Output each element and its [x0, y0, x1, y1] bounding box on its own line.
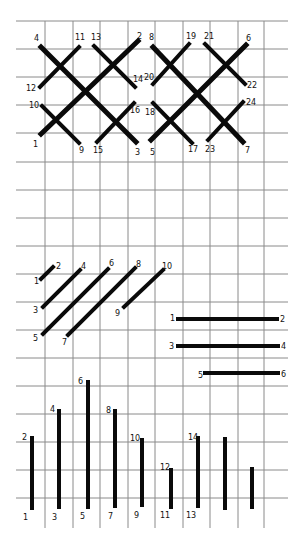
- stitch-number-label: 10: [130, 434, 140, 443]
- stitch-number-label: 2: [56, 262, 61, 271]
- stitch-number-label: 6: [281, 370, 286, 379]
- stitch-number-label: 11: [160, 511, 170, 520]
- stitch-number-label: 8: [136, 260, 141, 269]
- stitch-number-label: 6: [78, 377, 83, 386]
- stitch-number-label: 10: [29, 101, 39, 110]
- stitch-number-label: 1: [170, 314, 175, 323]
- stitch-number-label: 1: [34, 277, 39, 286]
- stitch-number-label: 9: [79, 146, 84, 155]
- stitch-number-label: 4: [81, 262, 86, 271]
- stitch-number-label: 11: [75, 33, 85, 42]
- stitch-number-label: 13: [186, 511, 196, 520]
- stitch-number-label: 20: [144, 73, 154, 82]
- stitch-number-label: 19: [186, 32, 196, 41]
- stitch-number-label: 8: [106, 406, 111, 415]
- stitch-number-label: 3: [33, 306, 38, 315]
- stitch-number-label: 12: [26, 84, 36, 93]
- stitch-number-label: 5: [150, 148, 155, 157]
- stitch-number-label: 7: [62, 338, 67, 347]
- stitch-number-label: 6: [246, 34, 251, 43]
- stitch-number-label: 5: [198, 371, 203, 380]
- stitch-number-label: 9: [115, 309, 120, 318]
- stitch-number-label: 2: [280, 315, 285, 324]
- stitch-number-label: 14: [133, 75, 143, 84]
- stitch-number-label: 13: [91, 33, 101, 42]
- stitch-number-label: 2: [137, 32, 142, 41]
- stitch-number-label: 4: [34, 34, 39, 43]
- stitch-number-label: 4: [50, 405, 55, 414]
- stitch-number-label: 3: [135, 148, 140, 157]
- stitch-number-label: 8: [149, 33, 154, 42]
- stitch-number-label: 5: [80, 512, 85, 521]
- stitch-number-label: 15: [93, 146, 103, 155]
- stitch-number-label: 7: [245, 146, 250, 155]
- stitch-number-label: 22: [247, 81, 257, 90]
- stitch-number-label: 18: [145, 108, 155, 117]
- stitch-number-label: 1: [33, 140, 38, 149]
- stitch-number-label: 6: [109, 259, 114, 268]
- stitch-number-label: 21: [204, 32, 214, 41]
- stitch-number-label: 23: [205, 145, 215, 154]
- stitch-number-label: 12: [160, 463, 170, 472]
- stitch-diagram-canvas: 411132819216121420221016182419153517237 …: [0, 0, 304, 545]
- stitch-number-label: 2: [22, 433, 27, 442]
- stitch-number-label: 3: [169, 342, 174, 351]
- stitch-number-label: 1: [23, 513, 28, 522]
- stitch-number-label: 7: [108, 512, 113, 521]
- stitch-number-label: 4: [281, 342, 286, 351]
- stitch-number-label: 17: [188, 145, 198, 154]
- stitch-number-label: 5: [33, 334, 38, 343]
- stitch-number-label: 10: [162, 262, 172, 271]
- stitch-number-label: 3: [52, 513, 57, 522]
- stitch-number-label: 24: [246, 98, 256, 107]
- stitch-number-label: 16: [130, 106, 140, 115]
- stitch-number-label: 9: [134, 511, 139, 520]
- stitch-number-label: 14: [188, 433, 198, 442]
